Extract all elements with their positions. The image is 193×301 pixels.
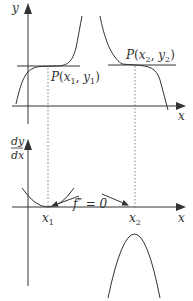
curve-rising-inflection — [16, 16, 82, 104]
top-y-arrow-icon — [24, 3, 32, 14]
dydx-denominator: dx — [11, 149, 25, 162]
top-graph: y x P(x1, y1) P(x2, y2) — [11, 1, 186, 124]
top-x-label: x — [178, 109, 185, 123]
dydx-numerator: dy — [11, 135, 25, 148]
bottom-y-arrow-icon — [24, 139, 32, 150]
bottom-x-arrow-icon — [176, 203, 186, 211]
derivative-parabola-down — [108, 234, 160, 298]
point1-label: P(x1, y1) — [50, 70, 100, 86]
bottom-x-label: x — [178, 211, 185, 225]
top-y-label: y — [11, 1, 19, 15]
point2-label: P(x2, y2) — [125, 48, 175, 64]
root1-label: x1 — [42, 211, 54, 227]
stationary-inflection-diagram: y x P(x1, y1) P(x2, y2) dy dx x — [0, 0, 193, 301]
f-double-prime-annotation: f″ = 0 — [72, 197, 108, 211]
bottom-graph: dy dx x x1 x2 f″ = 0 — [11, 135, 186, 298]
curve-falling-inflection — [100, 16, 168, 110]
root2-label: x2 — [129, 211, 141, 227]
